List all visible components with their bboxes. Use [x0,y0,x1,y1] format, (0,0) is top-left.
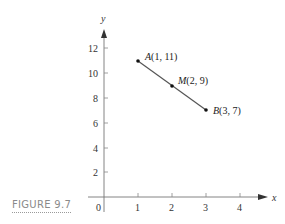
point-m [170,84,174,88]
x-axis-arrow-icon [258,194,268,200]
svg-text:12: 12 [88,43,98,54]
svg-text:2: 2 [169,202,174,213]
svg-text:0: 0 [96,202,101,213]
x-ticks: 0 1 2 3 4 [96,193,242,213]
y-axis-arrow-icon [101,29,107,38]
svg-text:3: 3 [203,202,208,213]
x-axis-label: x [271,192,277,203]
point-a [136,59,140,63]
y-ticks: 2 4 6 8 10 12 [88,43,108,178]
svg-text:6: 6 [93,118,98,129]
svg-text:4: 4 [237,202,242,213]
y-axis-label: y [100,13,106,24]
svg-text:4: 4 [93,143,98,154]
svg-text:10: 10 [88,68,98,79]
point-m-label: M(2, 9) [177,75,208,87]
point-a-label: A(1, 11) [144,51,177,63]
svg-text:2: 2 [93,167,98,178]
chart: x y 0 1 2 3 4 2 4 6 8 10 12 A(1, 11) M(2… [0,0,285,224]
point-b [204,108,208,112]
svg-text:8: 8 [93,93,98,104]
svg-text:1: 1 [135,202,140,213]
point-b-label: B(3, 7) [213,105,241,117]
